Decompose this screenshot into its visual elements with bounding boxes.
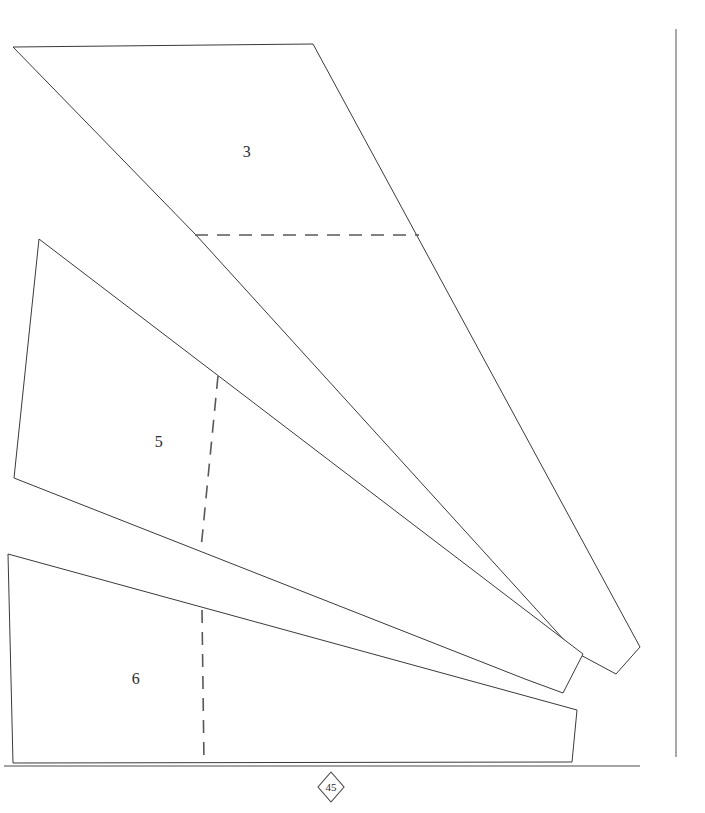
drawing-sheet: 3 5 6 45 [0,0,705,813]
sheet-number-marker[interactable]: 45 [318,772,344,802]
panel-5-label: 5 [155,433,163,450]
sheet-number-label: 45 [326,781,338,793]
panel-3-label: 3 [243,143,251,160]
panel-6-label: 6 [132,670,140,687]
pattern-drawing-canvas: 3 5 6 45 [0,0,705,813]
